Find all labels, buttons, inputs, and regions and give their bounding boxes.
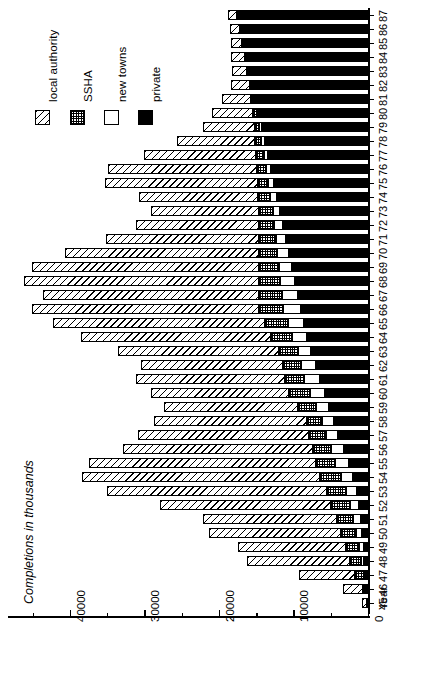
segment-private-74 — [277, 192, 368, 202]
segment-new-towns-79 — [259, 122, 262, 132]
segment-SSHA-87 — [237, 10, 239, 20]
year-tick-73 — [369, 211, 374, 212]
year-tick-78 — [369, 141, 374, 142]
segment-new-towns-71 — [276, 234, 286, 244]
segment-local-authority-64 — [81, 332, 271, 342]
year-label-74: 74 — [377, 191, 389, 203]
value-tick-10000 — [293, 610, 294, 616]
bar-year-56 — [0, 444, 368, 454]
segment-SSHA-82 — [250, 80, 252, 90]
segment-local-authority-65 — [53, 318, 265, 328]
segment-local-authority-68 — [24, 276, 259, 286]
year-label-62: 62 — [377, 359, 389, 371]
year-tick-83 — [369, 71, 374, 72]
year-label-70: 70 — [377, 247, 389, 259]
bar-year-81 — [0, 94, 368, 104]
year-tick-69 — [369, 267, 374, 268]
segment-private-85 — [244, 38, 368, 48]
segment-local-authority-50 — [209, 528, 342, 538]
year-tick-67 — [369, 295, 374, 296]
bar-year-69 — [0, 262, 368, 272]
year-tick-77 — [369, 155, 374, 156]
segment-local-authority-62 — [141, 360, 283, 370]
bar-year-59 — [0, 402, 368, 412]
segment-local-authority-79 — [203, 122, 255, 132]
segment-new-towns-83 — [249, 66, 251, 76]
bar-year-47 — [0, 570, 368, 580]
segment-local-authority-51 — [203, 514, 337, 524]
year-tick-51 — [369, 519, 374, 520]
segment-local-authority-75 — [105, 178, 258, 188]
segment-local-authority-87 — [228, 10, 237, 20]
year-tick-66 — [369, 309, 374, 310]
plot-area: 4546474849505152535455565758596061626364… — [0, 0, 426, 691]
bar-year-50 — [0, 528, 368, 538]
segment-new-towns-68 — [280, 276, 295, 286]
year-tick-86 — [369, 29, 374, 30]
bar-year-62 — [0, 360, 368, 370]
segment-private-87 — [238, 10, 368, 20]
segment-private-59 — [329, 402, 368, 412]
year-tick-70 — [369, 253, 374, 254]
bar-year-48 — [0, 556, 368, 566]
bar-year-55 — [0, 458, 368, 468]
year-label-82: 82 — [377, 79, 389, 91]
segment-SSHA-62 — [283, 360, 301, 370]
value-tick-15000 — [256, 613, 257, 617]
value-label-20000: 20000 — [224, 590, 236, 622]
segment-private-80 — [259, 108, 368, 118]
year-label-68: 68 — [377, 275, 389, 287]
bar-year-54 — [0, 472, 368, 482]
segment-private-64 — [307, 332, 368, 342]
year-label-86: 86 — [377, 23, 389, 35]
bar-year-77 — [0, 150, 368, 160]
segment-SSHA-64 — [271, 332, 292, 342]
bar-year-82 — [0, 80, 368, 90]
year-tick-61 — [369, 379, 374, 380]
segment-local-authority-45 — [362, 598, 366, 608]
bar-year-78 — [0, 136, 368, 146]
segment-private-50 — [362, 528, 368, 538]
segment-local-authority-48 — [247, 556, 350, 566]
segment-new-towns-51 — [353, 514, 360, 524]
segment-SSHA-74 — [258, 192, 270, 202]
year-tick-62 — [369, 365, 374, 366]
segment-private-55 — [349, 458, 368, 468]
segment-private-60 — [325, 388, 368, 398]
segment-new-towns-82 — [252, 80, 254, 90]
year-label-81: 81 — [377, 93, 389, 105]
bar-year-76 — [0, 164, 368, 174]
year-label-87: 87 — [377, 9, 389, 21]
bar-year-46 — [0, 584, 368, 594]
year-label-64: 64 — [377, 331, 389, 343]
segment-local-authority-80 — [212, 108, 253, 118]
year-label-48: 48 — [377, 555, 389, 567]
segment-new-towns-75 — [268, 178, 274, 188]
bar-year-45 — [0, 598, 368, 608]
year-tick-76 — [369, 169, 374, 170]
segment-private-82 — [253, 80, 368, 90]
year-label-71: 71 — [377, 233, 389, 245]
year-tick-50 — [369, 533, 374, 534]
segment-new-towns-76 — [266, 164, 271, 174]
year-tick-75 — [369, 183, 374, 184]
segment-local-authority-74 — [139, 192, 258, 202]
segment-local-authority-82 — [231, 80, 250, 90]
segment-new-towns-70 — [277, 248, 289, 258]
segment-private-66 — [301, 304, 368, 314]
bar-year-80 — [0, 108, 368, 118]
year-tick-53 — [369, 491, 374, 492]
year-label-79: 79 — [377, 121, 389, 133]
year-tick-60 — [369, 393, 374, 394]
year-tick-52 — [369, 505, 374, 506]
value-tick-40000 — [70, 610, 71, 616]
segment-new-towns-78 — [261, 136, 265, 146]
segment-new-towns-65 — [288, 318, 304, 328]
bar-year-86 — [0, 24, 368, 34]
segment-local-authority-72 — [136, 220, 259, 230]
year-tick-46 — [369, 589, 374, 590]
segment-private-65 — [304, 318, 368, 328]
segment-new-towns-50 — [356, 528, 362, 538]
segment-SSHA-66 — [259, 304, 283, 314]
segment-private-83 — [250, 66, 368, 76]
